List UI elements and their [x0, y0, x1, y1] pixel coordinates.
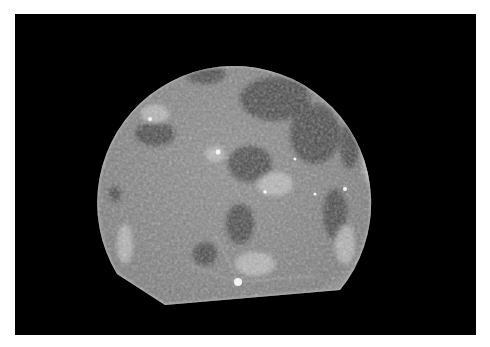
- crater-tycho: [234, 278, 242, 286]
- moon-image: [15, 14, 476, 335]
- photo-frame: [15, 14, 476, 335]
- moon-disc: [95, 34, 395, 324]
